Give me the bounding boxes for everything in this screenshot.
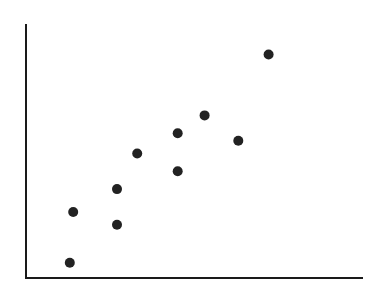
data-point [68,207,78,217]
plot-background [0,0,381,285]
data-point [132,149,142,159]
data-point [65,258,75,268]
data-point [264,50,274,60]
data-point [112,184,122,194]
data-point [112,220,122,230]
data-point [233,136,243,146]
data-point [173,128,183,138]
scatter-chart [0,0,381,285]
data-point [173,166,183,176]
data-point [200,110,210,120]
